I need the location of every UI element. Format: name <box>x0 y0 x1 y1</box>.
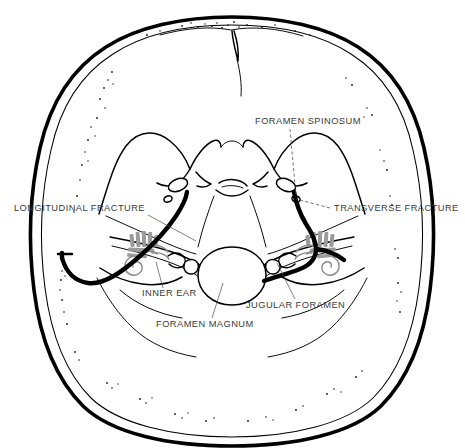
clivus-right-margin <box>250 196 266 247</box>
semicircular-canal-left-lateral <box>152 253 169 259</box>
jugular-foramen-right <box>265 260 280 274</box>
crista-galli <box>221 141 243 147</box>
leader-transverse-fracture <box>296 199 330 208</box>
inner-ear-left <box>125 231 169 275</box>
anterior-clinoid-right <box>253 172 268 187</box>
cranial-vault <box>31 17 434 446</box>
orbital-plate-margin-right <box>274 133 365 214</box>
label-foramen-magnum: FORAMEN MAGNUM <box>156 319 254 329</box>
frontal-crest <box>232 31 238 61</box>
cribriform-plate-left <box>190 140 221 169</box>
dorsum-sellae <box>216 190 248 196</box>
vault-inner-contour <box>42 25 423 437</box>
skull-diagram-canvas: LONGITUDINAL FRACTURE TRANSVERSE FRACTUR… <box>0 0 465 448</box>
sella-turcica-anterior <box>219 180 247 186</box>
frontal-midline-groove <box>237 59 241 96</box>
orbital-plate-margin-left <box>99 133 190 214</box>
label-foramen-spinosum: FORAMEN SPINOSUM <box>255 116 361 126</box>
sella-floor <box>222 186 243 188</box>
label-inner-ear: INNER EAR <box>142 288 197 298</box>
skull-base-foramina <box>163 176 301 305</box>
label-transverse-fracture: TRANSVERSE FRACTURE <box>334 203 459 213</box>
label-jugular-foramen: JUGULAR FORAMEN <box>246 300 345 310</box>
clivus-left-margin <box>198 196 214 247</box>
jugular-foramen-left <box>184 260 199 274</box>
cochlea-spiral-right <box>322 256 339 275</box>
diploe-stipple <box>59 21 402 422</box>
label-longitudinal-fracture: LONGITUDINAL FRACTURE <box>14 203 145 213</box>
anterior-cranial-fossa <box>99 133 365 214</box>
semicircular-canal-right-lateral <box>295 253 312 259</box>
skull-base-fracture-diagram: LONGITUDINAL FRACTURE TRANSVERSE FRACTUR… <box>0 0 465 448</box>
cribriform-plate-right <box>243 140 274 169</box>
anterior-clinoid-left <box>196 172 211 187</box>
foramen-spinosum-left <box>163 195 173 204</box>
foramen-magnum-opening <box>198 247 266 305</box>
vault-outer-contour <box>31 17 434 446</box>
